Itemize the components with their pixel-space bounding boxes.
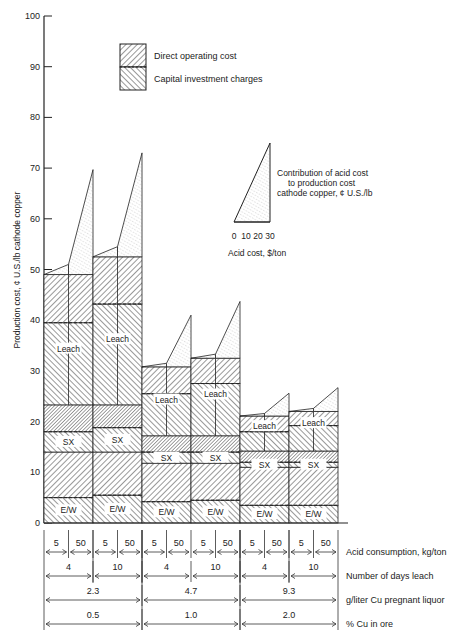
sx-operating-segment bbox=[93, 405, 142, 428]
triangle-label-line3: cathode copper, ¢ U.S./lb bbox=[277, 188, 373, 198]
acid-triangle-5 bbox=[142, 363, 167, 367]
ew-operating-segment bbox=[289, 467, 338, 505]
bar-group: LeachSXE/W bbox=[142, 315, 191, 523]
x-param-value: 50 bbox=[125, 538, 135, 548]
x-param-label: Number of days leach bbox=[346, 571, 434, 581]
legend-operating-label: Direct operating cost bbox=[154, 51, 237, 61]
acid-tick-0: 0 bbox=[232, 231, 237, 241]
x-parameter-table: 550550550550550550Acid consumption, kg/t… bbox=[44, 530, 447, 630]
y-tick-label: 60 bbox=[30, 214, 40, 224]
acid-triangle-5 bbox=[191, 354, 216, 358]
leach-label: Leach bbox=[253, 421, 276, 431]
ew-operating-segment bbox=[240, 467, 289, 505]
y-tick-label: 50 bbox=[30, 265, 40, 275]
leach-label: Leach bbox=[155, 395, 178, 405]
stacked-bars: LeachSXE/WLeachSXE/WLeachSXE/WLeachSXE/W… bbox=[44, 153, 348, 523]
sx-label: SX bbox=[210, 453, 222, 463]
x-param-label: Acid consumption, kg/ton bbox=[346, 547, 447, 557]
y-tick-label: 20 bbox=[30, 417, 40, 427]
triangle-label-line2: to production cost bbox=[288, 178, 356, 188]
x-param-value: 5 bbox=[250, 538, 255, 548]
x-param-value: 50 bbox=[223, 538, 233, 548]
ew-operating-segment bbox=[142, 463, 191, 502]
ew-label: E/W bbox=[256, 509, 272, 519]
x-param-value: 10 bbox=[308, 562, 318, 572]
leach-label: Leach bbox=[106, 334, 129, 344]
y-tick-label: 100 bbox=[25, 11, 40, 21]
x-param-value: 5 bbox=[103, 538, 108, 548]
acid-triangle-50 bbox=[314, 388, 339, 412]
x-param-value: 2.0 bbox=[283, 610, 296, 620]
x-param-value: 5 bbox=[299, 538, 304, 548]
x-param-value: 4 bbox=[262, 562, 267, 572]
x-param-value: 5 bbox=[152, 538, 157, 548]
acid-tick-10: 10 bbox=[241, 231, 251, 241]
sx-label: SX bbox=[112, 435, 124, 445]
acid-triangle-50 bbox=[167, 315, 192, 367]
ew-operating-segment bbox=[191, 463, 240, 500]
x-param-label: g/liter Cu pregnant liquor bbox=[346, 595, 445, 605]
bar-group: LeachSXE/W bbox=[93, 153, 142, 523]
x-param-value: 5 bbox=[201, 538, 206, 548]
x-param-value: 50 bbox=[76, 538, 86, 548]
bar-group: LeachSXE/W bbox=[191, 301, 240, 523]
legend-capital-swatch bbox=[120, 67, 146, 90]
sx-label: SX bbox=[63, 437, 75, 447]
y-tick-label: 10 bbox=[30, 467, 40, 477]
y-tick-label: 80 bbox=[30, 112, 40, 122]
leach-label: Leach bbox=[57, 344, 80, 354]
x-param-value: 5 bbox=[54, 538, 59, 548]
acid-triangle-50 bbox=[216, 301, 241, 358]
sx-label: SX bbox=[161, 453, 173, 463]
acid-triangle-50 bbox=[265, 393, 290, 416]
sx-label: SX bbox=[308, 460, 320, 470]
x-param-value: 10 bbox=[210, 562, 220, 572]
x-param-value: 50 bbox=[272, 538, 282, 548]
ew-operating-segment bbox=[93, 452, 142, 495]
acid-triangle-5 bbox=[240, 413, 265, 416]
ew-operating-segment bbox=[44, 452, 93, 498]
x-param-value: 4 bbox=[66, 562, 71, 572]
acid-tick-30: 30 bbox=[265, 231, 275, 241]
x-param-value: 0.5 bbox=[87, 610, 100, 620]
production-cost-chart: 0102030405060708090100 Production cost, … bbox=[0, 0, 453, 637]
leach-label: Leach bbox=[302, 418, 325, 428]
acid-triangle-sample bbox=[234, 143, 270, 222]
ew-label: E/W bbox=[305, 509, 321, 519]
y-tick-label: 40 bbox=[30, 315, 40, 325]
x-param-value: 50 bbox=[174, 538, 184, 548]
leach-label: Leach bbox=[204, 389, 227, 399]
legend-capital-label: Capital investment charges bbox=[154, 74, 263, 84]
x-param-value: 9.3 bbox=[283, 586, 296, 596]
x-param-value: 4 bbox=[164, 562, 169, 572]
triangle-label-line1: Contribution of acid cost bbox=[277, 168, 369, 178]
y-tick-label: 70 bbox=[30, 163, 40, 173]
legend-operating-swatch bbox=[120, 44, 146, 67]
x-param-value: 1.0 bbox=[185, 610, 198, 620]
ew-label: E/W bbox=[158, 507, 174, 517]
y-axis-label: Production cost, ¢ U.S./lb cathode coppe… bbox=[12, 191, 22, 348]
bar-group: LeachSXE/W bbox=[240, 393, 289, 523]
ew-label: E/W bbox=[60, 505, 76, 515]
sx-operating-segment bbox=[142, 436, 191, 452]
y-tick-label: 90 bbox=[30, 62, 40, 72]
acid-triangle-50 bbox=[69, 170, 94, 275]
bar-group: LeachSXE/W bbox=[289, 388, 338, 523]
y-tick-label: 30 bbox=[30, 366, 40, 376]
x-param-value: 10 bbox=[112, 562, 122, 572]
ew-label: E/W bbox=[109, 504, 125, 514]
sx-operating-segment bbox=[191, 436, 240, 452]
y-tick-label: 0 bbox=[35, 518, 40, 528]
acid-axis-label: Acid cost, $/ton bbox=[228, 248, 286, 258]
acid-triangle-5 bbox=[93, 247, 118, 257]
acid-tick-20: 20 bbox=[253, 231, 263, 241]
acid-triangle-5 bbox=[289, 408, 314, 411]
ew-label: E/W bbox=[207, 507, 223, 517]
acid-triangle-legend: Contribution of acid cost to production … bbox=[228, 143, 373, 258]
x-param-value: 2.3 bbox=[87, 586, 100, 596]
legend: Direct operating cost Capital investment… bbox=[120, 44, 263, 90]
sx-label: SX bbox=[259, 460, 271, 470]
x-param-value: 4.7 bbox=[185, 586, 198, 596]
sx-operating-segment bbox=[44, 405, 93, 432]
x-param-value: 50 bbox=[321, 538, 331, 548]
